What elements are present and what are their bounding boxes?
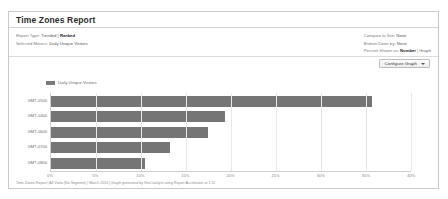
chart-bar[interactable]: [51, 158, 145, 169]
chart-bar[interactable]: [51, 96, 372, 107]
legend-label-daily-unique-visitors: Daily Unique Visitors: [58, 80, 97, 85]
meta-row-broken-down-by: Broken Down by: None: [364, 40, 431, 48]
chart-x-tick-label: 20%: [226, 173, 234, 178]
legend-swatch-icon: [46, 81, 55, 85]
chart-x-tick-label: 40%: [407, 173, 415, 178]
chart-gridline: [141, 93, 142, 171]
chart-gridline: [411, 93, 412, 171]
meta-value-report-type[interactable]: Trended |: [41, 33, 59, 38]
report-panel: Time Zones Report Report Type: Trended |…: [8, 11, 439, 189]
chart-x-tick-label: 10%: [136, 173, 144, 178]
report-title-bar: Time Zones Report: [9, 12, 438, 28]
meta-row-report-type: Report Type: Trended | Ranked: [16, 32, 88, 40]
chart-y-axis-label: GMT-0700: [28, 144, 47, 149]
chevron-down-icon: [421, 63, 425, 65]
chart-gridline: [276, 93, 277, 171]
meta-row-percent-shown-as: Percent Shown as: Number | Graph: [364, 47, 431, 55]
chart-gridline: [231, 93, 232, 171]
meta-row-compare-to-site: Compare to Site: None: [364, 32, 431, 40]
chart-gridline: [96, 93, 97, 171]
page-title: Time Zones Report: [16, 15, 95, 25]
meta-value-percent-graph[interactable]: Graph: [419, 48, 431, 53]
meta-label-broken-down-by: Broken Down by:: [364, 41, 396, 46]
meta-label-report-type: Report Type:: [16, 33, 40, 38]
chart-bar[interactable]: [51, 111, 225, 122]
report-meta-right: Compare to Site: None Broken Down by: No…: [364, 32, 431, 55]
chart-legend: Daily Unique Visitors: [46, 80, 97, 85]
chart-container: Daily Unique Visitors GMT-0500GMT-0400GM…: [16, 71, 433, 181]
chart-y-axis-label: GMT-0400: [28, 113, 47, 118]
meta-label-selected-metrics: Selected Metrics:: [16, 41, 48, 46]
meta-divider: [9, 56, 438, 57]
chart-gridline: [186, 93, 187, 171]
meta-value-report-type-selected[interactable]: Ranked: [60, 33, 75, 38]
chart-gridline: [321, 93, 322, 171]
chart-x-axis: 0%5%10%15%20%25%30%35%40%: [50, 173, 411, 181]
chart-x-tick-label: 35%: [362, 173, 370, 178]
meta-row-selected-metrics: Selected Metrics: Daily Unique Visitors: [16, 40, 88, 48]
meta-label-percent-shown-as: Percent Shown as:: [364, 48, 399, 53]
meta-label-compare-to-site: Compare to Site:: [364, 33, 395, 38]
chart-plot-area: GMT-0500GMT-0400GMT-0600GMT-0700GMT-0800: [50, 93, 411, 172]
screenshot-root: Time Zones Report Report Type: Trended |…: [0, 0, 448, 199]
chart-x-tick-label: 30%: [317, 173, 325, 178]
configure-graph-button[interactable]: Configure Graph: [379, 59, 430, 68]
configure-graph-label: Configure Graph: [385, 61, 417, 66]
report-footer-note: Time Zones Report | All Visits (No Segme…: [16, 181, 215, 185]
meta-value-compare-to-site[interactable]: None: [396, 33, 406, 38]
chart-bar[interactable]: [51, 127, 208, 138]
report-meta-left: Report Type: Trended | Ranked Selected M…: [16, 32, 88, 47]
chart-y-axis-label: GMT-0600: [28, 129, 47, 134]
chart-bar[interactable]: [51, 142, 170, 153]
meta-value-selected-metrics[interactable]: Daily Unique Visitors: [49, 41, 88, 46]
chart-gridline: [366, 93, 367, 171]
chart-x-tick-label: 0%: [47, 173, 53, 178]
chart-y-axis-label: GMT-0800: [28, 160, 47, 165]
chart-x-tick-label: 15%: [181, 173, 189, 178]
chart-x-tick-label: 5%: [92, 173, 98, 178]
chart-y-axis-label: GMT-0500: [28, 98, 47, 103]
chart-x-tick-label: 25%: [272, 173, 280, 178]
meta-value-percent-number[interactable]: Number: [400, 48, 416, 53]
meta-value-broken-down-by[interactable]: None: [397, 41, 407, 46]
